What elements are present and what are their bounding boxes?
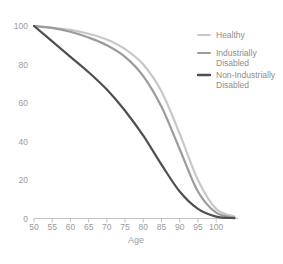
x-axis-tick-marks	[34, 219, 216, 223]
y-tick-label: 20	[19, 175, 29, 185]
x-tick-label: 100	[209, 222, 223, 232]
x-axis-title: Age	[128, 235, 144, 245]
y-tick-label: 0	[23, 214, 28, 224]
legend-label-cont: Disabled	[216, 58, 249, 68]
x-tick-label: 85	[157, 222, 167, 232]
x-tick-label: 55	[47, 222, 57, 232]
y-tick-label: 60	[19, 98, 29, 108]
x-tick-label: 90	[175, 222, 185, 232]
legend-label: Healthy	[216, 30, 246, 40]
y-tick-label: 40	[19, 137, 29, 147]
x-tick-label: 95	[193, 222, 203, 232]
legend-label: Industrially	[216, 48, 257, 58]
legend-label: Non-Industrially	[216, 70, 276, 80]
x-tick-label: 75	[120, 222, 130, 232]
x-axis-tick-labels: 50556065707580859095100	[29, 222, 223, 232]
x-tick-label: 65	[84, 222, 94, 232]
legend-label-cont: Disabled	[216, 80, 249, 90]
x-tick-label: 50	[29, 222, 39, 232]
survival-curve-chart: 020406080100 50556065707580859095100 Age…	[0, 0, 283, 264]
x-tick-label: 80	[139, 222, 149, 232]
chart-canvas: 020406080100 50556065707580859095100 Age…	[0, 0, 283, 264]
x-tick-label: 60	[66, 222, 76, 232]
x-tick-label: 70	[102, 222, 112, 232]
y-tick-label: 100	[14, 21, 28, 31]
chart-legend: HealthyIndustriallyDisabledNon-Industria…	[198, 30, 276, 90]
series-lines	[34, 26, 234, 218]
y-axis-tick-labels: 020406080100	[14, 21, 28, 224]
y-tick-label: 80	[19, 60, 29, 70]
